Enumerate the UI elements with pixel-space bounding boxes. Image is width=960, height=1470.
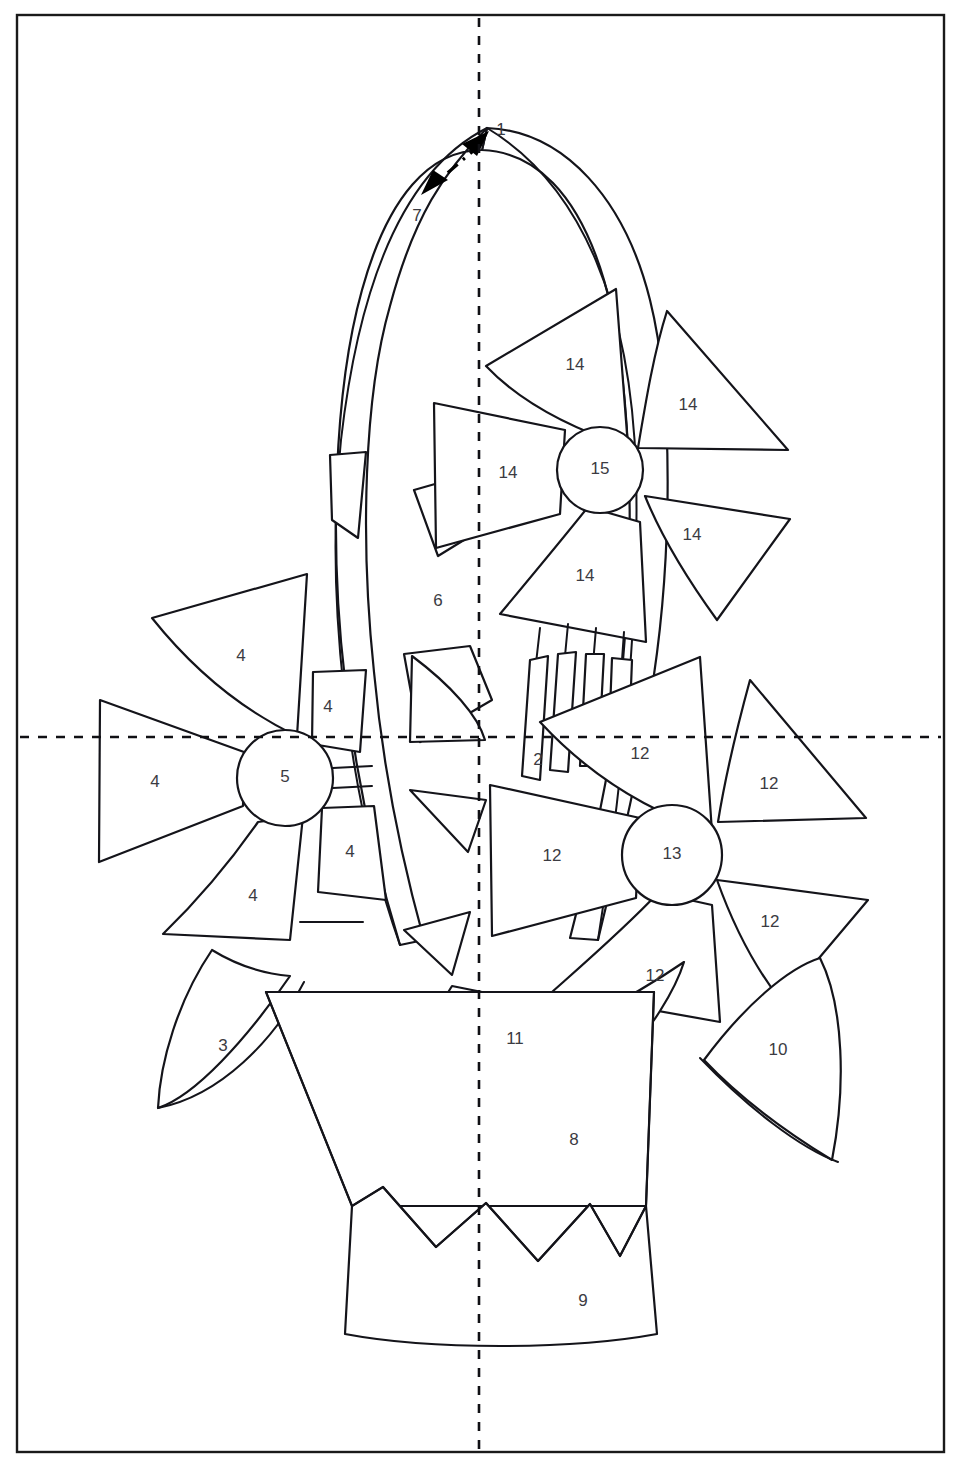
piece-number-label: 12: [760, 774, 779, 793]
piece-number-label: 14: [566, 355, 585, 374]
leaf-left-3: [158, 950, 290, 1108]
piece-number-label: 1: [496, 120, 505, 139]
piece-number-label: 13: [663, 844, 682, 863]
applique-pattern-drawing: 1714141415141464412245121213441212113108…: [0, 0, 960, 1470]
petal-right-upper-right: [718, 680, 866, 822]
piece-number-label: 4: [248, 886, 257, 905]
piece-number-label: 4: [345, 842, 354, 861]
piece-number-label: 12: [631, 744, 650, 763]
petal-left-lower: [163, 816, 303, 940]
piece-number-label: 5: [280, 767, 289, 786]
piece-number-label: 14: [576, 566, 595, 585]
piece-number-label: 10: [769, 1040, 788, 1059]
inner-fill-triangle-b: [410, 790, 486, 852]
piece-number-label: 12: [761, 912, 780, 931]
petal-left-left: [99, 700, 244, 862]
pattern-sheet: 1714141415141464412245121213441212113108…: [0, 0, 960, 1470]
petal-left-upper: [152, 574, 307, 736]
piece-number-label: 7: [412, 206, 421, 225]
piece-number-label: 8: [569, 1130, 578, 1149]
piece-number-label: 14: [683, 525, 702, 544]
piece-number-label: 14: [679, 395, 698, 414]
basket-band-9: [345, 1187, 657, 1346]
petal-top-upper-right: [638, 311, 788, 450]
piece-number-label: 4: [150, 772, 159, 791]
petal-top-lower: [500, 507, 646, 642]
petal-left-upper-right: [312, 670, 366, 752]
piece-number-label: 15: [591, 459, 610, 478]
piece-number-label: 4: [323, 697, 332, 716]
piece-number-label: 12: [543, 846, 562, 865]
basket-body: [266, 992, 654, 1206]
piece-number-label: 11: [506, 1029, 524, 1048]
petal-top-right: [645, 496, 790, 620]
piece-number-label: 14: [499, 463, 518, 482]
piece-number-label: 4: [236, 646, 245, 665]
piece-number-label: 6: [433, 591, 442, 610]
piece-number-label: 9: [578, 1291, 587, 1310]
piece-number-label: 2: [533, 750, 542, 769]
piece-number-label: 12: [646, 966, 665, 985]
piece-number-label: 3: [218, 1036, 227, 1055]
